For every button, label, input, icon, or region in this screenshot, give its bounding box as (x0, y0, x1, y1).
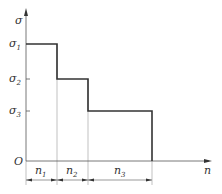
y-axis-label: σ (15, 14, 23, 27)
arrow-icon (57, 179, 63, 182)
level-label-sigma3: σ3 (9, 104, 22, 119)
duration-label-n1: n1 (35, 164, 47, 179)
x-axis-arrow-icon (204, 159, 212, 163)
arrow-icon (26, 179, 32, 182)
duration-label-n2: n2 (66, 164, 78, 179)
arrow-icon (51, 179, 57, 182)
guide-lines (26, 44, 152, 185)
level-label-sigma2: σ2 (9, 72, 22, 87)
arrow-icon (146, 179, 152, 182)
x-axis-label: n (204, 164, 211, 177)
origin-label: O (14, 155, 23, 168)
duration-label-n3: n3 (114, 164, 126, 179)
arrow-icon (82, 179, 88, 182)
stress-step-curve (26, 44, 152, 161)
step-stress-diagram: σ σ1 σ2 σ3 O n n1 n2 n3 (0, 0, 222, 194)
axes (26, 12, 209, 161)
arrow-icon (88, 179, 94, 182)
level-label-sigma1: σ1 (9, 37, 21, 52)
level-ticks (26, 79, 30, 111)
y-axis-arrow-icon (24, 8, 28, 16)
